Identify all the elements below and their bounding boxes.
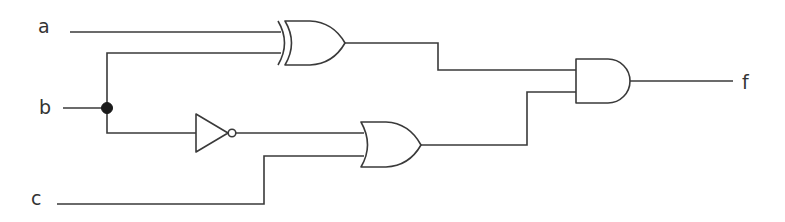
not-gate — [196, 114, 236, 152]
wire-c-to-or — [57, 156, 364, 204]
input-label-a: a — [38, 15, 50, 37]
or-gate-body — [361, 122, 421, 167]
input-label-c: c — [31, 187, 41, 209]
output-label-f: f — [742, 71, 750, 93]
not-gate-triangle — [196, 114, 228, 152]
input-label-b: b — [39, 96, 51, 118]
xor-gate — [278, 21, 345, 65]
logic-circuit-diagram: a b c f — [0, 0, 785, 222]
wire-or-to-and — [421, 92, 576, 145]
junction-dot — [102, 103, 113, 114]
not-gate-bubble — [228, 129, 236, 137]
and-gate — [576, 59, 630, 103]
or-gate — [361, 122, 421, 167]
wire-b-to-xor — [107, 53, 281, 108]
and-gate-body — [576, 59, 630, 103]
wire-b-to-not — [107, 108, 196, 133]
wire-xor-to-and — [345, 43, 576, 70]
xor-input-curve — [278, 21, 285, 65]
xor-gate-body — [285, 21, 345, 65]
